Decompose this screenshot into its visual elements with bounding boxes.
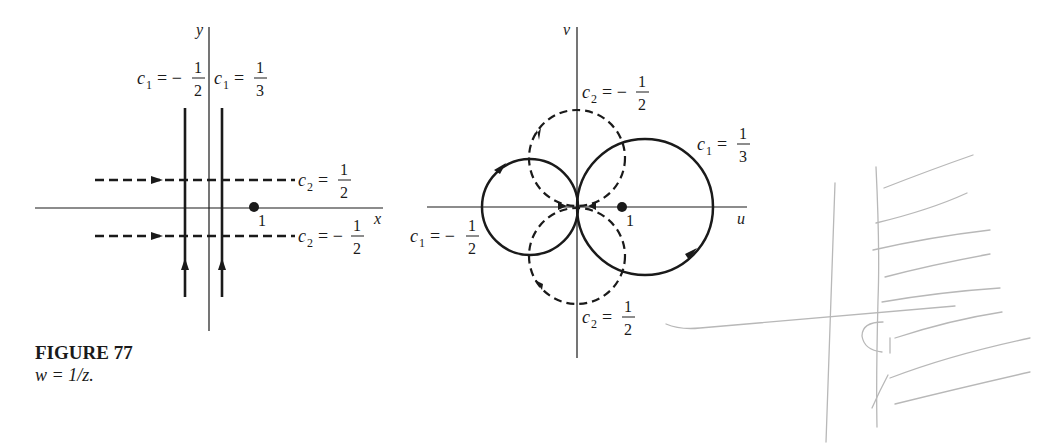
svg-text:2: 2	[307, 236, 313, 250]
svg-text:1: 1	[468, 217, 476, 234]
svg-text:c: c	[410, 226, 418, 246]
svg-text:=: =	[717, 134, 727, 154]
svg-text:1: 1	[223, 78, 229, 92]
point-one-label: 1	[258, 212, 266, 229]
arrow-right-icon	[151, 176, 163, 184]
point-one	[617, 202, 627, 212]
point-one	[249, 202, 259, 212]
svg-text:2: 2	[638, 96, 646, 113]
svg-text:2: 2	[624, 321, 632, 338]
label-c1-neg-half: c 1 = − 1 2	[410, 217, 479, 257]
arrow-right-icon	[151, 232, 163, 240]
figure-subtitle: w = 1/z.	[35, 365, 133, 386]
figure-title: FIGURE 77	[35, 342, 133, 364]
handwritten-sketch	[666, 155, 1030, 442]
figure-caption: FIGURE 77 w = 1/z.	[35, 342, 133, 386]
svg-text:1: 1	[706, 144, 712, 158]
svg-text:c: c	[298, 170, 306, 190]
svg-text:= −: = −	[602, 82, 627, 102]
label-c1-third: c 1 = 1 3	[697, 125, 750, 165]
svg-text:= −: = −	[430, 226, 455, 246]
svg-text:c: c	[582, 82, 590, 102]
svg-text:=: =	[318, 170, 328, 190]
svg-text:1: 1	[194, 59, 202, 76]
u-axis-label: u	[737, 210, 745, 227]
svg-text:c: c	[214, 68, 222, 88]
arrow-icon	[535, 280, 543, 290]
svg-text:2: 2	[468, 240, 476, 257]
svg-text:2: 2	[194, 82, 202, 99]
handwritten-c1-glyph	[862, 322, 883, 352]
svg-text:2: 2	[591, 92, 597, 106]
label-c2-half: c 2 = 1 2	[298, 161, 351, 201]
svg-text:1: 1	[146, 78, 152, 92]
svg-text:1: 1	[638, 73, 646, 90]
svg-text:c: c	[582, 307, 590, 327]
svg-text:2: 2	[591, 317, 597, 331]
label-c2-neg-half: c 2 = − 1 2	[582, 73, 649, 113]
label-c2-half: c 2 = 1 2	[582, 298, 635, 338]
svg-text:2: 2	[307, 180, 313, 194]
svg-text:1: 1	[419, 236, 425, 250]
z-plane: x y 1 c 1 = − 1 2 c 1 = 1 3	[35, 21, 383, 331]
svg-text:=: =	[602, 307, 612, 327]
svg-text:2: 2	[353, 240, 361, 257]
svg-text:1: 1	[624, 298, 632, 315]
arrow-icon	[532, 128, 541, 140]
svg-text:=: =	[234, 68, 244, 88]
svg-text:= −: = −	[157, 68, 182, 88]
x-axis-label: x	[373, 210, 381, 227]
svg-text:c: c	[298, 226, 306, 246]
svg-text:= −: = −	[318, 226, 343, 246]
y-axis-label: y	[194, 21, 204, 39]
svg-text:c: c	[697, 134, 705, 154]
svg-text:2: 2	[340, 184, 348, 201]
figure-canvas: x y 1 c 1 = − 1 2 c 1 = 1 3	[0, 0, 1048, 444]
label-c2-neg-half: c 2 = − 1 2	[298, 217, 364, 257]
arrow-up-icon	[218, 258, 226, 270]
label-c1-neg-half: c 1 = − 1 2	[137, 59, 205, 99]
svg-text:c: c	[137, 68, 145, 88]
svg-text:1: 1	[340, 161, 348, 178]
v-axis-label: v	[563, 21, 571, 38]
point-one-label: 1	[626, 212, 634, 229]
arrow-up-icon	[181, 258, 189, 270]
svg-text:3: 3	[256, 82, 264, 99]
svg-text:3: 3	[739, 148, 747, 165]
svg-text:1: 1	[256, 59, 264, 76]
svg-text:1: 1	[353, 217, 361, 234]
svg-text:1: 1	[739, 125, 747, 142]
w-plane: u v 1 c 2 = − 1 2 c 1 = 1	[410, 21, 750, 358]
label-c1-third: c 1 = 1 3	[214, 59, 267, 99]
